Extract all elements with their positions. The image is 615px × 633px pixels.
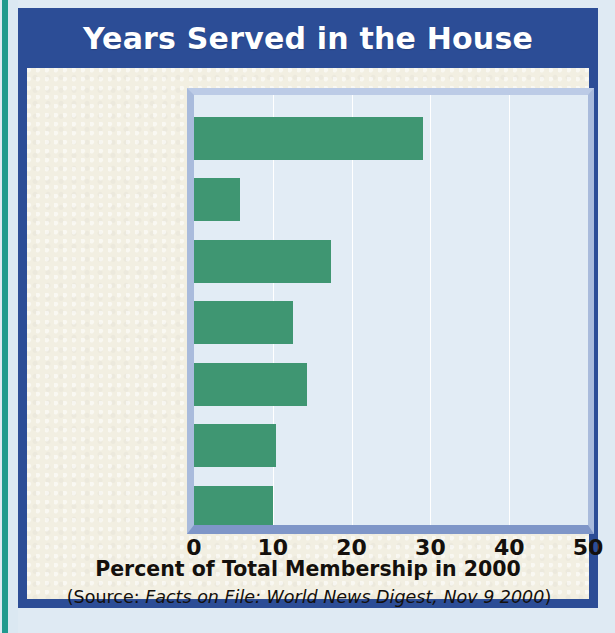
chart-figure: Years Served in the House 12+ years10–12… — [0, 0, 615, 633]
bar — [194, 178, 240, 221]
bar — [194, 363, 307, 406]
bar — [194, 240, 331, 283]
x-axis-title: Percent of Total Membership in 2000 — [27, 557, 589, 581]
bar — [194, 486, 273, 525]
gridline — [430, 95, 431, 525]
source-publication: Facts on File: World News Digest, Nov 9 … — [145, 587, 544, 607]
source-note: (Source: Facts on File: World News Diges… — [31, 587, 587, 607]
chart-interior: 12+ years10–12 years8–10 years6–8 years4… — [27, 68, 589, 599]
page-edge-pale-blue — [8, 0, 18, 633]
plot-inner — [194, 95, 588, 525]
bar — [194, 301, 293, 344]
plot-area — [187, 88, 594, 534]
page-title: Years Served in the House — [83, 21, 533, 56]
bar — [194, 117, 423, 160]
source-suffix: ) — [544, 587, 551, 607]
chart-title-band: Years Served in the House — [18, 8, 598, 68]
chart-panel: Years Served in the House 12+ years10–12… — [18, 8, 598, 608]
plot-wrapper: 12+ years10–12 years8–10 years6–8 years4… — [177, 80, 582, 526]
source-prefix: (Source: — [67, 587, 145, 607]
bar — [194, 424, 276, 467]
gridline — [509, 95, 510, 525]
